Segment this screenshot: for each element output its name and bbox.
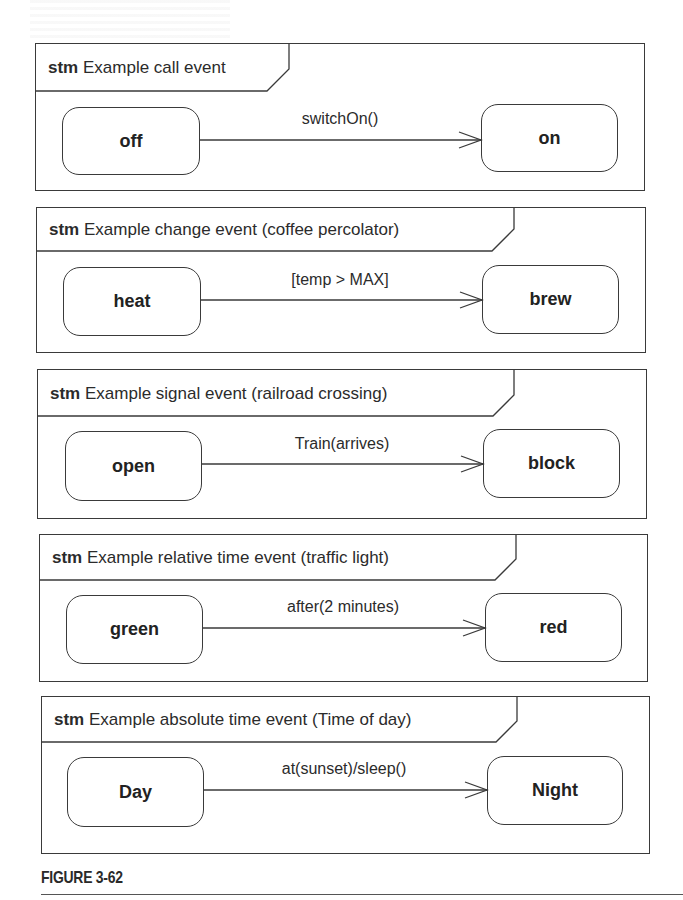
state-label: on bbox=[539, 128, 561, 149]
state-heat[interactable]: heat bbox=[63, 267, 201, 336]
frame-title: stm Example signal event (railroad cross… bbox=[50, 384, 387, 404]
state-block[interactable]: block bbox=[483, 429, 620, 498]
state-label: red bbox=[539, 617, 567, 638]
transition-label: at(sunset)/sleep() bbox=[282, 760, 407, 778]
transition-arrow[interactable] bbox=[203, 618, 486, 638]
transition-label: [temp > MAX] bbox=[291, 271, 388, 289]
state-on[interactable]: on bbox=[481, 104, 618, 172]
state-off[interactable]: off bbox=[62, 107, 200, 175]
print-bleed-through bbox=[30, 0, 230, 38]
frame-title-text: Example change event (coffee percolator) bbox=[84, 220, 399, 239]
state-brew[interactable]: brew bbox=[482, 265, 619, 334]
stm-keyword: stm bbox=[52, 548, 82, 567]
frame-title-text: Example relative time event (traffic lig… bbox=[87, 548, 389, 567]
state-night[interactable]: Night bbox=[487, 756, 623, 825]
state-label: Day bbox=[119, 782, 152, 803]
state-red[interactable]: red bbox=[485, 593, 622, 662]
frame-title-text: Example call event bbox=[83, 58, 226, 77]
frame-title: stm Example relative time event (traffic… bbox=[52, 548, 389, 568]
frame-title: stm Example call event bbox=[48, 58, 226, 78]
state-label: brew bbox=[529, 289, 571, 310]
state-label: heat bbox=[113, 291, 150, 312]
state-day[interactable]: Day bbox=[67, 757, 204, 827]
state-label: block bbox=[528, 453, 575, 474]
transition-label: Train(arrives) bbox=[295, 435, 390, 453]
stm-keyword: stm bbox=[49, 220, 79, 239]
state-label: open bbox=[112, 456, 155, 477]
state-label: Night bbox=[532, 780, 578, 801]
stm-keyword: stm bbox=[48, 58, 78, 77]
transition-arrow[interactable] bbox=[204, 780, 488, 800]
transition-label: after(2 minutes) bbox=[287, 598, 399, 616]
state-label: green bbox=[110, 619, 159, 640]
transition-label: switchOn() bbox=[302, 110, 378, 128]
state-open[interactable]: open bbox=[65, 431, 202, 501]
frame-title: stm Example change event (coffee percola… bbox=[49, 220, 399, 240]
transition-arrow[interactable] bbox=[200, 130, 482, 150]
transition-arrow[interactable] bbox=[202, 454, 484, 474]
caption-rule bbox=[41, 894, 683, 895]
frame-title-text: Example signal event (railroad crossing) bbox=[85, 384, 387, 403]
figure-caption: FIGURE 3-62 bbox=[41, 868, 123, 888]
frame-title-text: Example absolute time event (Time of day… bbox=[89, 710, 412, 729]
stm-keyword: stm bbox=[50, 384, 80, 403]
transition-arrow[interactable] bbox=[201, 290, 483, 310]
state-green[interactable]: green bbox=[66, 595, 203, 664]
stm-keyword: stm bbox=[54, 710, 84, 729]
frame-title: stm Example absolute time event (Time of… bbox=[54, 710, 411, 730]
state-label: off bbox=[120, 131, 143, 152]
